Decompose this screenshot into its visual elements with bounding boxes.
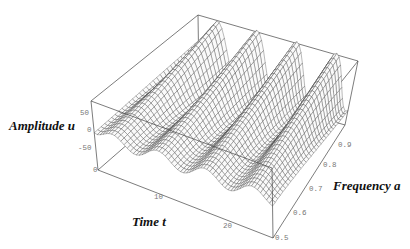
u-tick-50: 50 (80, 109, 89, 117)
a-tick-0.7: 0.7 (309, 185, 323, 193)
box-edge (91, 101, 98, 170)
t-tick-20: 20 (223, 222, 232, 230)
a-tick-0.9: 0.9 (338, 141, 352, 149)
t-tick-0: 0 (93, 166, 98, 174)
axis-title-time: Time t (132, 214, 166, 230)
a-tick-0.6: 0.6 (293, 209, 307, 217)
axis-title-amplitude: Amplitude u (9, 118, 75, 134)
t-tick-10: 10 (154, 193, 163, 201)
axis-title-frequency: Frequency a (333, 178, 401, 194)
u-tick-0: 0 (87, 126, 92, 134)
a-tick-0.5: 0.5 (275, 234, 289, 242)
u-tick-minus-50: -50 (78, 144, 92, 152)
surface-mesh (94, 21, 348, 206)
a-tick-0.8: 0.8 (323, 161, 337, 169)
box-edge (345, 61, 358, 125)
